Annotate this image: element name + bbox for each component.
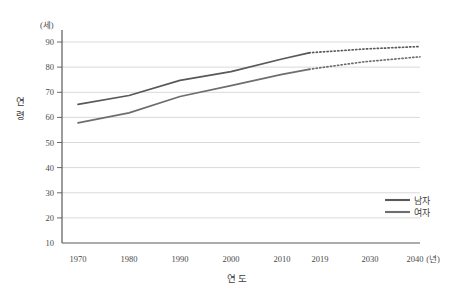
legend-label-female: 여자 — [414, 207, 431, 218]
y-tick-10: 10 — [46, 238, 55, 248]
y-tick-70: 70 — [46, 87, 55, 97]
x-axis-title: 연 도 — [227, 274, 247, 284]
y-tick-20: 20 — [46, 213, 55, 223]
y-axis-unit-label: (세) — [40, 20, 54, 30]
y-tick-90: 90 — [46, 37, 55, 47]
life-expectancy-line-chart: (세) 90 80 70 60 50 40 30 20 10 1970 1980… — [0, 0, 461, 308]
x-tick-1990: 1990 — [172, 254, 189, 264]
x-tick-1980: 1980 — [121, 254, 138, 264]
x-axis-unit-label: (년) — [426, 254, 440, 264]
y-axis-title: 연 령 — [12, 96, 28, 124]
x-tick-2030: 2030 — [362, 254, 379, 264]
legend-label-male: 남자 — [414, 196, 431, 206]
y-tick-80: 80 — [46, 62, 55, 72]
y-tick-40: 40 — [46, 163, 55, 173]
y-axis-tick-labels: 90 80 70 60 50 40 30 20 10 — [46, 37, 55, 248]
x-tick-1970: 1970 — [70, 254, 87, 264]
y-tick-30: 30 — [46, 188, 55, 198]
x-tick-2000: 2000 — [223, 254, 240, 264]
x-tick-2010: 2010 — [274, 254, 291, 264]
x-tick-2040: 2040 — [407, 254, 424, 264]
y-tick-50: 50 — [46, 138, 55, 148]
y-axis-ticks — [57, 42, 62, 218]
y-axis-title-char-1: 연 — [12, 96, 28, 110]
x-tick-2019: 2019 — [312, 254, 329, 264]
chart-canvas: (세) 90 80 70 60 50 40 30 20 10 1970 1980… — [0, 0, 461, 308]
x-axis-tick-labels: 1970 1980 1990 2000 2010 2019 2030 2040 … — [70, 254, 440, 264]
y-axis-title-char-2: 령 — [12, 110, 28, 124]
y-tick-60: 60 — [46, 112, 55, 122]
